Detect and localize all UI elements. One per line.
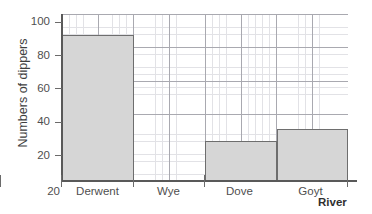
y-tick-80 bbox=[55, 55, 62, 56]
bar-derwent bbox=[62, 35, 134, 181]
bar-dove bbox=[205, 141, 277, 181]
y-tick-20 bbox=[55, 155, 62, 156]
x-tick-3 bbox=[0, 175, 1, 187]
bar-goyt bbox=[277, 129, 349, 181]
x-label-wye: Wye bbox=[133, 185, 204, 197]
x-label-dove: Dove bbox=[204, 185, 275, 197]
x-axis-title: River bbox=[318, 196, 347, 208]
bar-chart: 100 80 60 40 20 Numbers of dippers 20 De… bbox=[0, 0, 372, 214]
y-axis-line bbox=[61, 14, 63, 182]
y-axis-origin-label: 20 bbox=[24, 185, 60, 197]
x-tick-4 bbox=[347, 175, 348, 187]
x-label-derwent: Derwent bbox=[62, 185, 133, 197]
y-tick-60 bbox=[55, 88, 62, 89]
plot-area bbox=[62, 14, 348, 181]
x-axis-line bbox=[61, 180, 357, 182]
y-tick-100 bbox=[55, 22, 62, 23]
y-axis-title: Numbers of dippers bbox=[16, 13, 30, 173]
y-tick-40 bbox=[55, 122, 62, 123]
